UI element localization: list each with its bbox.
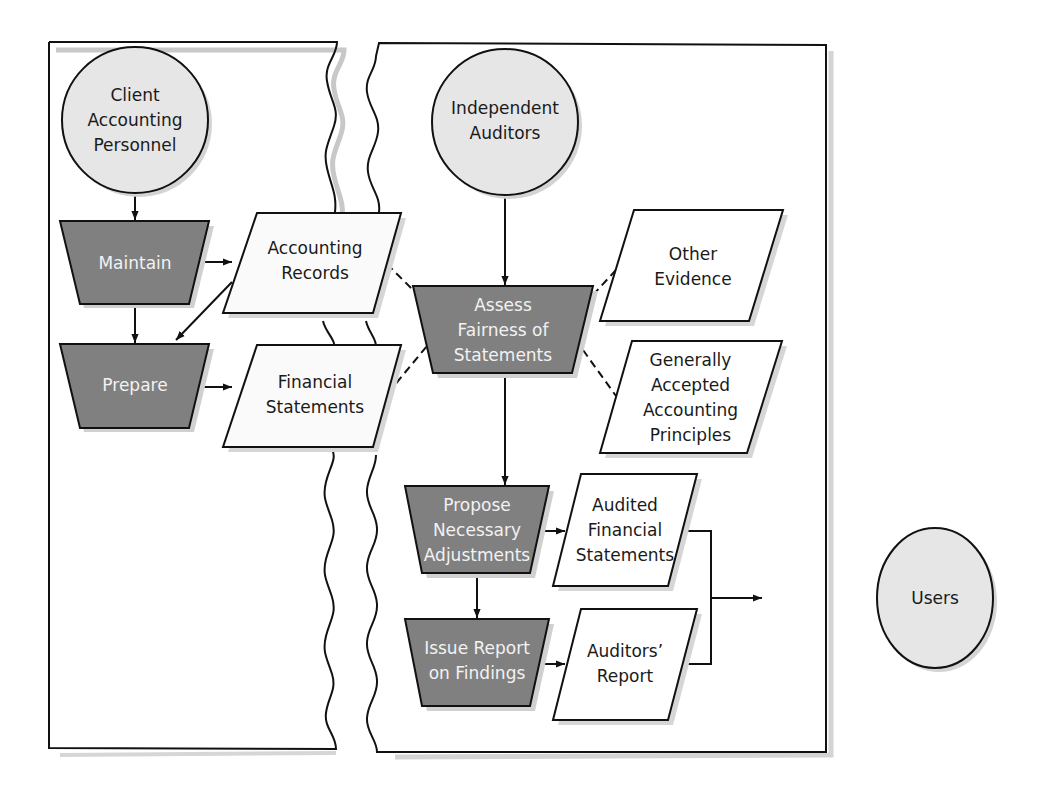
process-issue: [405, 619, 554, 711]
entity-users: [877, 528, 997, 672]
dashed-gaap-to-assess: [583, 350, 616, 396]
document-accounting-records: [223, 213, 406, 318]
process-maintain: [60, 221, 214, 308]
document-financial-statements: [223, 345, 406, 452]
entity-auditors: [432, 49, 582, 199]
process-assess: [413, 286, 598, 378]
document-other-evidence: [600, 210, 788, 326]
process-propose: [405, 486, 554, 578]
audit-process-diagram: [0, 0, 1042, 789]
process-prepare: [60, 344, 214, 432]
document-gaap: [600, 341, 787, 458]
document-audited-fs: [553, 474, 702, 591]
document-auditors-report: [553, 609, 702, 725]
entity-client: [62, 47, 212, 197]
